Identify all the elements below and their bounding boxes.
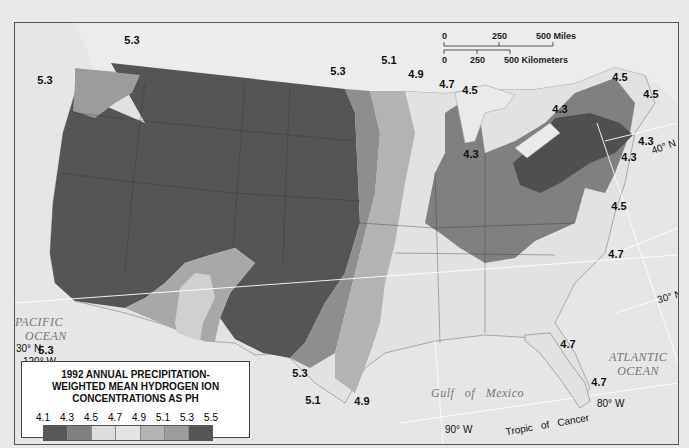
legend-tick: 4.5 bbox=[84, 412, 98, 423]
lon-80w-label: 80° W bbox=[597, 398, 624, 409]
legend-ticks: 4.1 4.3 4.5 4.7 4.9 5.1 5.3 5.5 bbox=[36, 412, 236, 424]
legend-tick: 4.9 bbox=[132, 412, 146, 423]
isoline-value-label: 4.7 bbox=[591, 376, 606, 388]
map-frame: 0 250 500 Miles 0 250 500 Kilometers PAC… bbox=[14, 22, 679, 445]
legend-title-line-2: WEIGHTED MEAN HYDROGEN ION bbox=[22, 381, 249, 393]
isoline-value-label: 4.5 bbox=[612, 71, 627, 83]
legend-tick: 4.1 bbox=[36, 412, 50, 423]
isoline-value-label: 4.3 bbox=[621, 151, 636, 163]
isoline-value-label: 4.9 bbox=[354, 395, 369, 407]
scale-km-0: 0 bbox=[442, 55, 447, 65]
legend-tick: 5.1 bbox=[156, 412, 170, 423]
isoline-value-label: 5.3 bbox=[330, 65, 345, 77]
isoline-value-label: 5.3 bbox=[38, 344, 53, 356]
isoline-value-label: 4.3 bbox=[552, 103, 567, 115]
legend-title: 1992 ANNUAL PRECIPITATION- WEIGHTED MEAN… bbox=[22, 369, 249, 405]
legend: 1992 ANNUAL PRECIPITATION- WEIGHTED MEAN… bbox=[21, 361, 250, 438]
isoline-value-label: 5.1 bbox=[305, 394, 320, 406]
atlantic-ocean-label: ATLANTIC OCEAN bbox=[609, 350, 667, 378]
legend-swatch bbox=[116, 426, 140, 440]
legend-color-bar bbox=[43, 425, 213, 441]
isoline-value-label: 4.5 bbox=[462, 84, 477, 96]
atlantic-line-2: OCEAN bbox=[609, 364, 667, 378]
isoline-value-label: 4.3 bbox=[638, 135, 653, 147]
legend-swatch bbox=[44, 426, 68, 440]
isoline-value-label: 4.7 bbox=[608, 248, 623, 260]
pacific-line-1: PACIFIC bbox=[14, 315, 67, 329]
isoline-value-label: 4.7 bbox=[439, 78, 454, 90]
scale-miles-0: 0 bbox=[442, 31, 447, 41]
pacific-ocean-label: PACIFIC OCEAN bbox=[14, 315, 67, 343]
scale-miles-250: 250 bbox=[492, 31, 507, 41]
scale-km-500: 500 Kilometers bbox=[504, 55, 568, 65]
legend-swatch bbox=[141, 426, 165, 440]
legend-title-line-1: 1992 ANNUAL PRECIPITATION- bbox=[22, 369, 249, 381]
legend-tick: 4.7 bbox=[108, 412, 122, 423]
isoline-value-label: 4.7 bbox=[560, 338, 575, 350]
isoline-value-label: 4.5 bbox=[643, 88, 658, 100]
isoline-value-label: 4.9 bbox=[408, 68, 423, 80]
legend-swatch bbox=[68, 426, 92, 440]
legend-tick: 5.5 bbox=[204, 412, 218, 423]
legend-tick: 5.3 bbox=[180, 412, 194, 423]
pacific-line-2: OCEAN bbox=[14, 329, 67, 343]
legend-swatch bbox=[92, 426, 116, 440]
legend-swatch bbox=[189, 426, 212, 440]
lat-30n-west-label: 30° N bbox=[16, 343, 41, 354]
isoline-value-label: 4.3 bbox=[463, 148, 478, 160]
isoline-value-label: 5.3 bbox=[37, 74, 52, 86]
scale-km-250: 250 bbox=[470, 55, 485, 65]
legend-tick: 4.3 bbox=[60, 412, 74, 423]
atlantic-line-1: ATLANTIC bbox=[609, 350, 667, 364]
isoline-value-label: 5.3 bbox=[292, 367, 307, 379]
scale-bar: 0 250 500 Miles 0 250 500 Kilometers bbox=[442, 29, 642, 69]
isoline-value-label: 4.5 bbox=[611, 200, 626, 212]
scale-miles-500: 500 Miles bbox=[536, 31, 576, 41]
legend-title-line-3: CONCENTRATIONS AS PH bbox=[22, 393, 249, 405]
legend-swatch bbox=[165, 426, 189, 440]
lon-90w-label: 90° W bbox=[445, 424, 472, 435]
isoline-value-label: 5.3 bbox=[124, 34, 139, 46]
isoline-value-label: 5.1 bbox=[381, 54, 396, 66]
gulf-of-mexico-label: Gulf of Mexico bbox=[431, 386, 524, 400]
